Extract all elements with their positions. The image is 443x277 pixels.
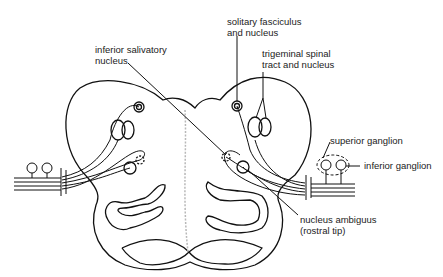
label-superior-ganglion: superior ganglion [330,136,403,147]
right-nerve-fibers [224,106,355,200]
label-nucleus-ambiguus: nucleus ambiguus (rostral tip) [300,215,377,236]
midline-raphe [185,110,188,252]
left-nuclei [111,102,144,174]
label-solitary-fasciculus: solitary fasciculus and nucleus [227,17,301,38]
inferior-olive-right [206,182,268,233]
pyramid-right [189,240,262,264]
label-trigeminal-spinal-tract: trigeminal spinal tract and nucleus [262,49,334,70]
medulla-outline [66,77,311,269]
left-nerve-fibers [14,105,145,196]
inferior-olive-left [106,185,165,230]
label-inferior-salivatory-nucleus: inferior salivatory nucleus [95,45,167,66]
pyramid-left [122,240,189,265]
label-inferior-ganglion: inferior ganglion [364,161,432,172]
